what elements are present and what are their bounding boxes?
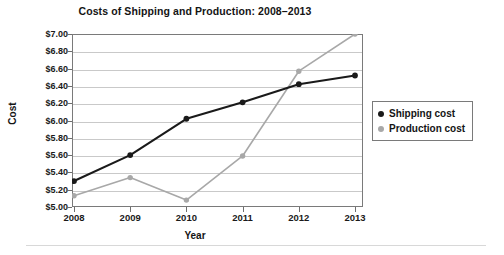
x-axis-tick-label: 2010 bbox=[162, 212, 210, 223]
y-axis-tick-label: $7.00 bbox=[22, 29, 68, 39]
data-point[interactable] bbox=[72, 193, 77, 198]
series-line-production-cost bbox=[74, 34, 355, 200]
legend-marker-icon bbox=[378, 111, 384, 117]
y-axis-tick-mark bbox=[66, 207, 72, 208]
data-point[interactable] bbox=[352, 34, 357, 37]
bottom-divider bbox=[26, 245, 486, 246]
y-axis-tick-label: $6.40 bbox=[22, 81, 68, 91]
y-axis-tick-label: $6.00 bbox=[22, 116, 68, 126]
chart-figure: Costs of Shipping and Production: 2008–2… bbox=[0, 0, 504, 255]
legend-item-shipping-cost[interactable]: Shipping cost bbox=[378, 106, 465, 121]
data-series-layer bbox=[72, 34, 363, 207]
x-axis-tick-label: 2008 bbox=[50, 212, 98, 223]
legend-label: Shipping cost bbox=[389, 108, 455, 119]
data-point[interactable] bbox=[296, 81, 302, 87]
y-axis-title: Cost bbox=[7, 90, 18, 138]
data-point[interactable] bbox=[127, 152, 133, 158]
x-axis-tick-label: 2013 bbox=[331, 212, 379, 223]
y-axis-tick-label: $5.40 bbox=[22, 167, 68, 177]
y-axis-tick-label: $6.80 bbox=[22, 46, 68, 56]
x-axis-tick-label: 2012 bbox=[275, 212, 323, 223]
y-axis-tick-label: $5.60 bbox=[22, 150, 68, 160]
y-axis-tick-labels: $7.00$6.80$6.60$6.40$6.20$6.00$5.80$5.60… bbox=[22, 34, 68, 207]
data-point[interactable] bbox=[128, 175, 133, 180]
y-axis-tick-label: $5.80 bbox=[22, 133, 68, 143]
x-axis-tick-label: 2009 bbox=[106, 212, 154, 223]
data-point[interactable] bbox=[240, 153, 245, 158]
data-point[interactable] bbox=[240, 99, 246, 105]
data-point[interactable] bbox=[352, 73, 358, 79]
legend-label: Production cost bbox=[389, 123, 465, 134]
series-line-shipping-cost bbox=[74, 76, 355, 182]
x-axis-tick-label: 2011 bbox=[219, 212, 267, 223]
data-point[interactable] bbox=[184, 116, 190, 122]
data-point[interactable] bbox=[184, 197, 189, 202]
x-axis-title: Year bbox=[0, 230, 390, 241]
chart-legend: Shipping cost Production cost bbox=[372, 101, 473, 141]
y-axis-tick-label: $5.00 bbox=[22, 202, 68, 212]
y-axis-tick-label: $6.60 bbox=[22, 64, 68, 74]
legend-marker-icon bbox=[378, 126, 384, 132]
data-point[interactable] bbox=[296, 68, 301, 73]
chart-title: Costs of Shipping and Production: 2008–2… bbox=[0, 5, 390, 17]
legend-item-production-cost[interactable]: Production cost bbox=[378, 121, 465, 136]
y-axis-tick-label: $6.20 bbox=[22, 98, 68, 108]
y-axis-tick-label: $5.20 bbox=[22, 185, 68, 195]
